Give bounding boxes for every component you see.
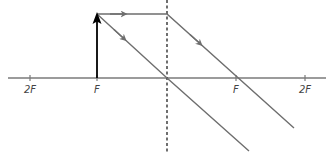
center-ray-arrow [114,30,124,39]
label-2f-right: 2F [299,85,311,95]
parallel-ray [97,14,294,128]
diagram-svg [0,0,333,163]
lens-ray-diagram: 2F F F 2F [0,0,333,163]
label-2f-left: 2F [24,85,36,95]
label-f-left: F [94,85,100,95]
parallel-ray-arrow-2 [190,35,200,44]
label-f-right: F [233,85,239,95]
